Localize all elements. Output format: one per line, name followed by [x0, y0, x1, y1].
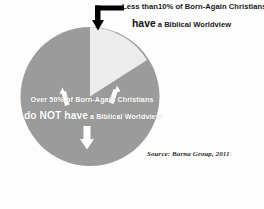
pie-label-line2: do NOT have a Biblical Worldview [24, 105, 160, 123]
callout-line2-rest: a Biblical Worldview [156, 20, 231, 29]
elbow-arrow-icon [92, 6, 124, 31]
callout-line2-strong: have [132, 18, 156, 29]
callout-leader-arrow [88, 2, 124, 32]
chart-canvas: Over 50% of Born-Again Christians do NOT… [0, 0, 264, 209]
pie-reflection [19, 168, 161, 208]
callout-text: Less than10% of Born-Again Christians ha… [122, 2, 264, 31]
pie-label-line1: Over 50% of Born-Again Christians [24, 96, 160, 104]
reflection-fade [19, 168, 161, 208]
pie-label-line2-rest: a Biblical Worldview [88, 112, 161, 121]
pie-label-line2-strong: do NOT have [24, 110, 88, 121]
source-attribution: Source: Barna Group, 2011 [147, 150, 230, 158]
callout-line2: have a Biblical Worldview [122, 13, 264, 31]
callout-line1: Less than10% of Born-Again Christians [122, 2, 264, 11]
pie-slice-major-label: Over 50% of Born-Again Christians do NOT… [24, 96, 160, 124]
